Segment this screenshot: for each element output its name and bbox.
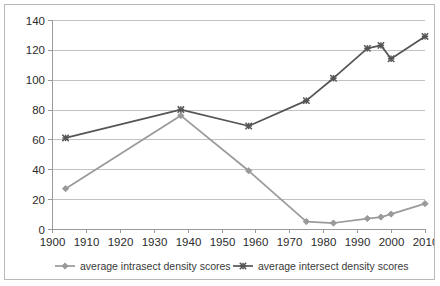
y-tick-label: 0	[39, 224, 45, 236]
y-tick-label: 140	[26, 15, 45, 27]
data-point-marker	[364, 45, 370, 51]
x-tick-label: 1970	[277, 236, 303, 248]
x-tick-label: 1990	[345, 236, 371, 248]
data-point-marker	[422, 33, 428, 39]
y-tick-label: 100	[26, 74, 45, 86]
data-point-marker	[62, 135, 68, 141]
legend-label: average intersect density scores	[258, 260, 409, 272]
data-point-marker	[245, 123, 251, 129]
chart-container: 0204060801001201401900191019201930194019…	[0, 0, 440, 286]
x-tick-label: 1900	[40, 236, 66, 248]
series-2	[62, 33, 428, 141]
legend-item[interactable]: average intersect density scores	[233, 260, 409, 272]
x-tick-label: 1960	[243, 236, 269, 248]
data-point-marker	[178, 106, 184, 112]
data-point-marker	[378, 214, 384, 220]
y-tick-label: 120	[26, 44, 45, 56]
chart-frame: 0204060801001201401900191019201930194019…	[4, 4, 435, 280]
y-axis-labels: 020406080100120140	[26, 15, 52, 236]
data-point-marker	[388, 211, 394, 217]
legend-marker-icon	[62, 263, 68, 269]
data-point-marker	[303, 97, 309, 103]
series-line	[66, 116, 425, 223]
x-axis-labels: 1900191019201930194019501960197019801990…	[40, 229, 434, 248]
x-tick-label: 1930	[142, 236, 168, 248]
line-chart: 0204060801001201401900191019201930194019…	[5, 5, 434, 279]
data-point-marker	[388, 56, 394, 62]
series-1	[62, 112, 428, 226]
data-point-marker	[422, 201, 428, 207]
x-tick-label: 1950	[210, 236, 236, 248]
data-point-marker	[378, 42, 384, 48]
x-tick-label: 2000	[379, 236, 405, 248]
y-tick-label: 80	[32, 104, 45, 116]
x-tick-label: 1920	[108, 236, 134, 248]
x-tick-label: 2010	[413, 236, 434, 248]
data-point-marker	[364, 215, 370, 221]
x-tick-label: 1980	[311, 236, 337, 248]
x-tick-label: 1910	[74, 236, 100, 248]
chart-legend: average intrasect density scoresaverage …	[55, 260, 409, 272]
data-point-marker	[330, 75, 336, 81]
y-tick-label: 20	[32, 194, 45, 206]
y-tick-label: 40	[32, 164, 45, 176]
data-point-marker	[330, 220, 336, 226]
legend-item[interactable]: average intrasect density scores	[55, 260, 231, 272]
axes	[52, 20, 425, 230]
y-tick-label: 60	[32, 134, 45, 146]
legend-label: average intrasect density scores	[80, 260, 231, 272]
series-line	[66, 36, 425, 138]
legend-marker-icon	[240, 263, 246, 269]
x-tick-label: 1940	[176, 236, 202, 248]
